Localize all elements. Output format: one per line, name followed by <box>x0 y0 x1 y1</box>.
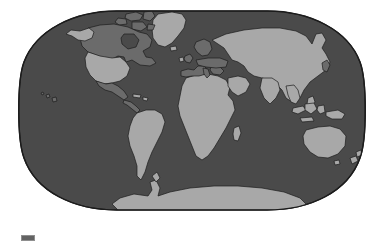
legend <box>21 235 39 241</box>
region-ireland <box>179 57 184 62</box>
region-iceland <box>170 46 177 51</box>
region-caribbean-1 <box>133 94 141 98</box>
region-indonesia-java <box>300 117 314 122</box>
map-canvas <box>0 0 384 232</box>
world-map-figure <box>0 0 384 246</box>
legend-swatch <box>21 235 35 241</box>
region-hawaii <box>41 92 44 95</box>
region-caribbean-2 <box>143 97 148 101</box>
world-map-svg <box>0 0 384 232</box>
region-tasmania <box>334 160 340 165</box>
region-hawaii-2 <box>46 94 50 98</box>
region-hawaii-3 <box>52 97 57 102</box>
